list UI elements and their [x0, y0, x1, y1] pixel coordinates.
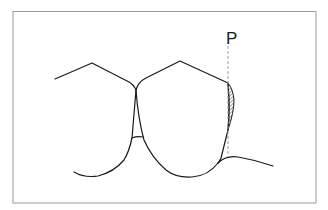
left-tooth-incisal-outline [55, 63, 136, 90]
left-tooth-distal-outline [74, 90, 136, 177]
center-tooth-outline [136, 61, 229, 177]
right-gingiva-outline [218, 157, 273, 166]
tooth-diagram [0, 0, 328, 210]
frame-border [13, 12, 316, 204]
interdental-contact-line [132, 137, 143, 138]
point-p-label: P [226, 30, 237, 47]
hatched-labial-region [228, 83, 234, 130]
